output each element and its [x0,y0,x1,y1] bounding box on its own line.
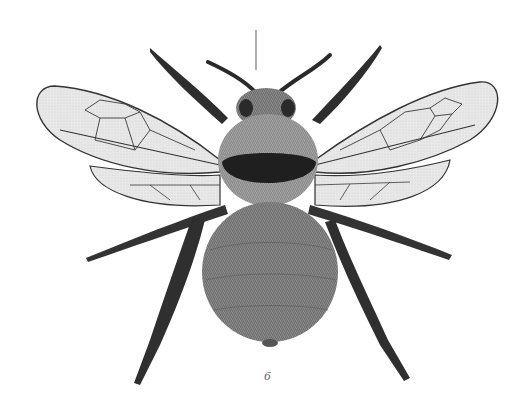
abdomen-tip [262,339,278,347]
left-eye [239,99,253,117]
left-forewing [37,86,220,173]
right-antenna [276,55,330,95]
left-foreleg [150,48,228,124]
left-hindleg [134,218,205,385]
right-foreleg [312,45,382,124]
figure-number: 6 [264,370,271,383]
right-eye [281,99,295,117]
left-antenna [208,62,258,95]
bee-illustration [0,0,529,408]
right-hindleg [325,220,410,381]
abdomen [202,202,338,342]
